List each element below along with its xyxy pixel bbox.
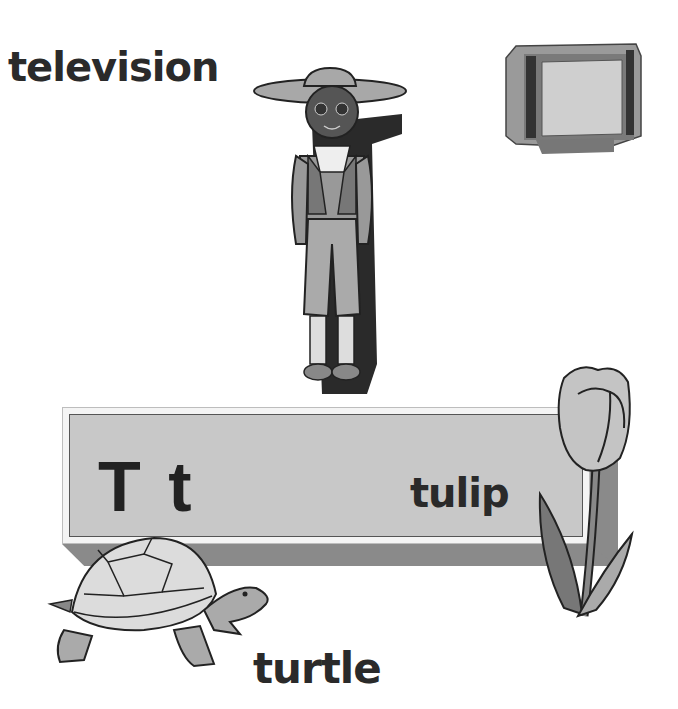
banner-panel: T t tulip	[69, 414, 583, 537]
turtle-illustration	[44, 534, 276, 670]
word-turtle: turtle	[253, 644, 381, 693]
tulip-illustration	[534, 358, 638, 623]
word-television: television	[8, 44, 218, 90]
word-tulip: tulip	[410, 470, 509, 516]
letter-heading: T t	[98, 447, 196, 527]
television-illustration	[496, 36, 656, 161]
boy-illustration	[252, 64, 412, 399]
banner-face: T t tulip	[62, 407, 590, 544]
